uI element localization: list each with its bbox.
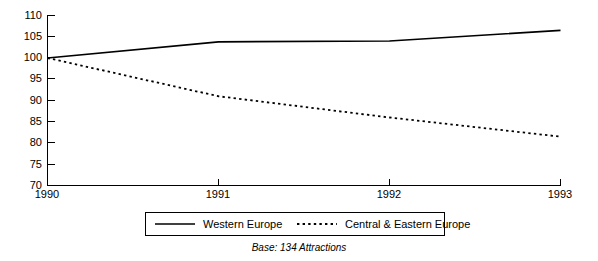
chart-canvas: 110 105 100 95 90 85 80 75 70 1990 1991 … <box>0 0 598 261</box>
y-tick-label-95: 95 <box>30 72 42 84</box>
x-tick-label-1993: 1993 <box>548 188 572 200</box>
x-tick-marks <box>48 179 561 186</box>
series-line-central-eastern-europe <box>48 58 561 137</box>
y-tick-label-75: 75 <box>30 158 42 170</box>
y-tick-marks <box>48 16 55 186</box>
line-chart: 110 105 100 95 90 85 80 75 70 1990 1991 … <box>0 0 598 261</box>
x-tick-label-1992: 1992 <box>377 188 401 200</box>
y-tick-label-90: 90 <box>30 94 42 106</box>
chart-legend: Western Europe Central & Eastern Europe <box>146 213 471 236</box>
y-tick-label-80: 80 <box>30 136 42 148</box>
x-tick-label-1991: 1991 <box>206 188 230 200</box>
chart-caption: Base: 134 Attractions <box>252 242 347 253</box>
y-tick-label-105: 105 <box>24 30 42 42</box>
series-line-western-europe <box>48 30 561 58</box>
y-tick-label-85: 85 <box>30 115 42 127</box>
y-tick-label-110: 110 <box>24 9 42 21</box>
legend-label-central-eastern-europe: Central & Eastern Europe <box>345 218 470 230</box>
y-tick-label-100: 100 <box>24 51 42 63</box>
x-tick-label-1990: 1990 <box>35 188 59 200</box>
legend-label-western-europe: Western Europe <box>203 218 282 230</box>
